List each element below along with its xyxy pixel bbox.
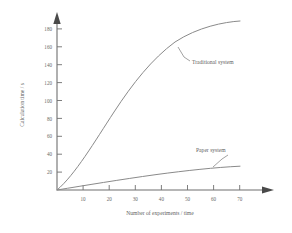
y-tick-label-180: 180 (44, 26, 52, 32)
chart-figure: 20 40 60 80 100 120 140 160 180 10 20 30… (0, 0, 292, 233)
line-chart-canvas: 20 40 60 80 100 120 140 160 180 10 20 30… (0, 0, 292, 233)
y-tick-label-60: 60 (47, 133, 53, 139)
y-tick-label-100: 100 (44, 98, 52, 104)
series-label-paper-system: Paper system (196, 147, 226, 153)
y-axis-title: Calculation time / s (19, 83, 25, 127)
x-tick-label-10: 10 (81, 196, 87, 202)
y-tick-label-160: 160 (44, 44, 52, 50)
series-label-traditional-system: Traditional system (192, 59, 234, 65)
x-tick-label-20: 20 (107, 196, 113, 202)
y-tick-label-80: 80 (47, 116, 53, 122)
y-tick-label-140: 140 (44, 62, 52, 68)
x-tick-label-50: 50 (185, 196, 191, 202)
x-tick-label-60: 60 (211, 196, 217, 202)
y-tick-label-120: 120 (44, 80, 52, 86)
y-tick-label-20: 20 (47, 169, 53, 175)
x-tick-label-30: 30 (133, 196, 139, 202)
chart-background (0, 0, 292, 233)
y-tick-label-40: 40 (47, 151, 53, 157)
x-axis-title: Number of experiments / time (126, 210, 194, 216)
x-tick-label-40: 40 (159, 196, 165, 202)
x-tick-label-70: 70 (237, 196, 243, 202)
